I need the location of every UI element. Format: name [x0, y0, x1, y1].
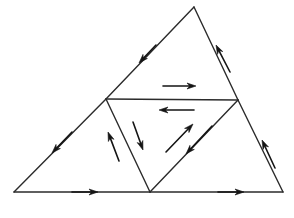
arrow-midsegment-above-right — [163, 83, 196, 89]
diagram-canvas — [0, 0, 294, 218]
edge-midsegment-horizontal — [106, 99, 238, 100]
arrow-bottom-right-segment — [218, 189, 244, 195]
arrow-left-diagonal-up — [108, 132, 119, 161]
arrow-midsegment-below-left — [159, 107, 194, 113]
arrow-left-diagonal-down — [133, 122, 143, 150]
arrow-bottom-left-segment — [72, 189, 98, 195]
edge-right-mid-to-bottom-right — [238, 100, 283, 192]
edge-apex-to-right-mid — [194, 7, 238, 100]
arrow-upper-left-edge-shaft — [142, 45, 156, 59]
arrow-upper-left-edge — [139, 45, 156, 63]
arrow-left-diagonal-down-shaft — [133, 122, 141, 145]
edges-layer — [14, 7, 283, 192]
arrow-lower-left-edge-shaft — [55, 132, 72, 149]
triangle-subdivision-diagram — [0, 0, 294, 218]
arrow-lower-left-edge — [52, 132, 72, 153]
arrow-right-diagonal-down-shaft — [189, 126, 212, 150]
arrow-left-diagonal-up-shaft — [110, 137, 119, 161]
arrow-right-diagonal-up-shaft — [166, 128, 190, 152]
